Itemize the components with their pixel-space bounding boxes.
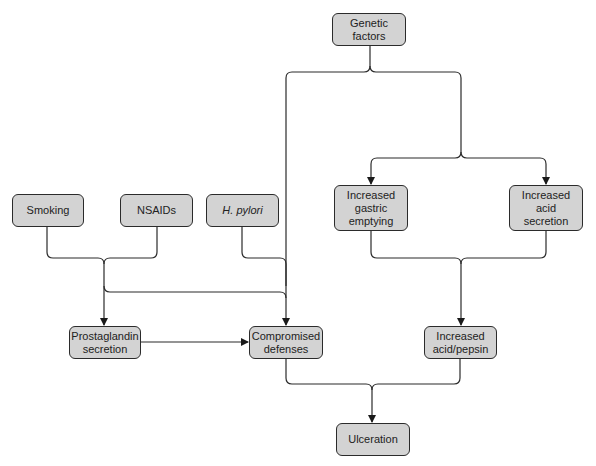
node-label: Smoking <box>27 204 70 217</box>
node-label: H. pylori <box>222 204 262 217</box>
node-increased-gastric-emptying: Increased gastric emptying <box>334 185 408 231</box>
node-label: Increased acid/pepsin <box>433 330 489 356</box>
node-label: Increased gastric emptying <box>347 189 395 228</box>
node-prostaglandin-secretion: Prostaglandin secretion <box>69 326 141 359</box>
node-compromised-defenses: Compromised defenses <box>249 326 323 359</box>
node-nsaids: NSAIDs <box>120 194 193 227</box>
node-ulceration: Ulceration <box>336 423 410 456</box>
node-label: Prostaglandin secretion <box>71 330 138 356</box>
node-label: Increased acid secretion <box>512 189 580 228</box>
node-label: NSAIDs <box>137 204 176 217</box>
node-label: Ulceration <box>348 433 398 446</box>
connector-lines <box>0 0 596 466</box>
node-h-pylori: H. pylori <box>206 194 279 227</box>
node-genetic-factors: Genetic factors <box>332 13 406 46</box>
node-increased-acid-secretion: Increased acid secretion <box>509 185 583 231</box>
node-smoking: Smoking <box>12 194 84 227</box>
node-label: Compromised defenses <box>252 330 320 356</box>
node-increased-acid-pepsin: Increased acid/pepsin <box>424 326 497 359</box>
node-label: Genetic factors <box>350 17 388 43</box>
